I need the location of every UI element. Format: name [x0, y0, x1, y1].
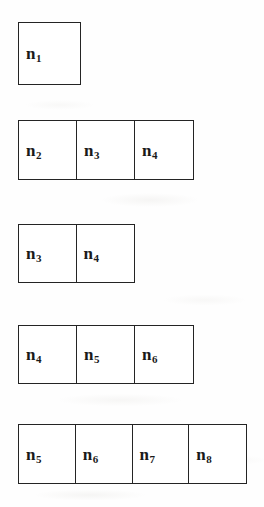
sequence-cell: n4 — [77, 225, 134, 282]
cell-label: n8 — [196, 446, 211, 463]
sequence-cell: n7 — [133, 425, 190, 483]
cell-label: n1 — [26, 45, 41, 62]
cell-label: n4 — [84, 245, 99, 262]
sequence-cell: n5 — [19, 425, 76, 483]
cell-label: n2 — [26, 142, 41, 159]
cell-label-subscript: 6 — [93, 453, 99, 465]
cell-label-subscript: 3 — [94, 149, 100, 161]
sequence-row: n4 n5 n6 — [18, 325, 194, 384]
cell-label-subscript: 7 — [149, 453, 155, 465]
cell-label-subscript: 3 — [36, 252, 42, 264]
sequence-row: n5 n6 n7 n8 — [18, 424, 247, 484]
sequence-cell: n3 — [19, 225, 77, 282]
cell-label: n4 — [26, 346, 41, 363]
cell-label: n5 — [84, 346, 99, 363]
cell-label-subscript: 4 — [36, 353, 42, 365]
sequence-cell: n6 — [76, 425, 133, 483]
sequence-row: n1 — [18, 22, 81, 85]
cell-label: n7 — [140, 446, 155, 463]
sequence-cell: n4 — [19, 326, 77, 383]
cell-label: n5 — [26, 446, 41, 463]
sequence-row: n2 n3 n4 — [18, 120, 194, 180]
cell-label: n3 — [84, 142, 99, 159]
cell-label-subscript: 2 — [36, 149, 42, 161]
cell-label: n6 — [83, 446, 98, 463]
sequence-cell: n4 — [135, 121, 193, 179]
sequence-cell: n8 — [189, 425, 246, 483]
cell-label: n3 — [26, 245, 41, 262]
cell-label-subscript: 5 — [94, 353, 100, 365]
cell-label-subscript: 4 — [93, 252, 99, 264]
sequence-cell: n1 — [19, 23, 80, 84]
sequence-cell: n3 — [77, 121, 135, 179]
cell-label-subscript: 6 — [152, 353, 158, 365]
cell-label-subscript: 8 — [206, 453, 212, 465]
cell-label: n6 — [142, 346, 157, 363]
sequence-cell: n6 — [135, 326, 193, 383]
sequence-cell: n2 — [19, 121, 77, 179]
sequence-row: n3 n4 — [18, 224, 135, 283]
cell-label-subscript: 1 — [36, 52, 42, 64]
sequence-cell: n5 — [77, 326, 135, 383]
cell-label: n4 — [142, 142, 157, 159]
figure-canvas: n1 n2 n3 n4 n3 n4 n4 n5 n6 n — [0, 0, 264, 507]
cell-label-subscript: 5 — [36, 453, 42, 465]
cell-label-subscript: 4 — [152, 149, 158, 161]
